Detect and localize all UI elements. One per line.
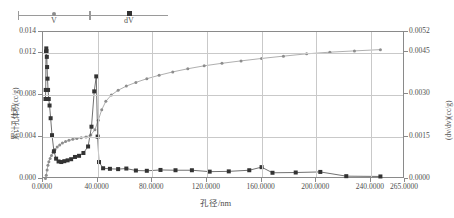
data-point-square <box>69 157 73 161</box>
series-line <box>45 48 380 176</box>
data-point-circle <box>71 138 74 141</box>
y-axis-right-tick <box>404 31 408 32</box>
data-point-circle <box>61 142 64 145</box>
data-point-circle <box>134 81 137 84</box>
data-point-square <box>134 169 138 173</box>
data-point-square <box>101 166 105 170</box>
gridline-vertical <box>371 32 372 177</box>
data-point-circle <box>45 174 48 177</box>
x-axis-tick-label: 265.0000 <box>390 183 418 191</box>
legend-label-dv: dV <box>124 16 134 26</box>
y-axis-right-tick <box>404 93 408 94</box>
x-axis-tick-label: 120.0000 <box>192 183 220 191</box>
data-point-square <box>81 151 85 155</box>
x-axis-tick-label: 160.0000 <box>247 183 275 191</box>
gridline-vertical <box>152 32 153 177</box>
data-point-circle <box>240 59 243 62</box>
data-point-circle <box>58 143 61 146</box>
data-point-circle <box>158 74 161 77</box>
data-point-square <box>116 167 120 171</box>
data-point-square <box>108 167 112 171</box>
data-point-square <box>46 88 50 92</box>
y-axis-left-tick-label: 0.000 <box>0 174 36 182</box>
chart-root: V dV 累计孔体积(cc/g) (dv/dv)(cc/g) 孔径/nm 0.0… <box>0 0 454 218</box>
data-point-square <box>47 97 51 101</box>
y-axis-left-tick-label: 0.012 <box>0 48 36 56</box>
x-axis-tick-label: 0.0000 <box>32 183 53 191</box>
y-axis-right-tick-label: 0.0045 <box>409 47 430 55</box>
data-point-square <box>190 168 194 172</box>
data-point-square <box>49 116 53 120</box>
data-point-circle <box>379 48 382 51</box>
y-axis-right-tick <box>404 51 408 52</box>
data-point-circle <box>145 77 148 80</box>
legend-tick-left <box>90 11 91 20</box>
y-axis-right-title: (dv/dv)(cc/g) <box>444 100 453 140</box>
series-v <box>44 48 382 180</box>
data-point-circle <box>67 139 70 142</box>
data-point-square <box>378 174 382 178</box>
data-point-square <box>145 169 149 173</box>
data-point-square <box>270 171 274 175</box>
x-axis-tick-label: 240.0000 <box>356 183 384 191</box>
data-point-circle <box>100 108 103 111</box>
x-axis-tick-label: 40.0000 <box>84 183 108 191</box>
data-point-circle <box>93 128 96 131</box>
data-point-circle <box>64 140 67 143</box>
legend-entry-v[interactable]: V <box>18 6 90 28</box>
data-point-circle <box>44 177 47 180</box>
data-point-circle <box>282 55 285 58</box>
data-point-circle <box>125 85 128 88</box>
x-axis-title: 孔径/nm <box>200 196 231 208</box>
legend-label-v: V <box>51 16 57 26</box>
data-point-circle <box>220 62 223 65</box>
data-point-square <box>73 155 77 159</box>
data-point-circle <box>49 157 52 160</box>
x-axis-tick-label: 200.0000 <box>301 183 329 191</box>
data-point-square <box>66 158 70 162</box>
data-point-square <box>174 168 178 172</box>
data-point-square <box>52 149 56 153</box>
y-axis-left-tick-label: 0.004 <box>0 132 36 140</box>
data-point-square <box>86 144 90 148</box>
y-axis-left-tick-label: 0.014 <box>0 27 36 35</box>
data-point-circle <box>50 154 53 157</box>
y-axis-left-tick <box>38 94 42 95</box>
data-point-circle <box>56 145 59 148</box>
legend-entry-dv[interactable]: dV <box>90 6 168 28</box>
data-point-circle <box>353 49 356 52</box>
data-point-square <box>45 55 49 59</box>
y-axis-right-tick-label: 0.0052 <box>409 27 430 35</box>
gridline-vertical <box>316 32 317 177</box>
y-axis-right-tick-label: 0.0000 <box>409 174 430 182</box>
data-point-square <box>208 170 212 174</box>
data-point-square <box>294 171 298 175</box>
data-point-square <box>46 77 50 81</box>
data-point-square <box>45 65 49 69</box>
data-point-square <box>77 154 81 158</box>
data-point-circle <box>171 70 174 73</box>
y-axis-left-tick <box>38 52 42 53</box>
data-point-circle <box>46 169 49 172</box>
y-axis-right-tick <box>404 136 408 137</box>
data-point-square <box>158 168 162 172</box>
data-point-circle <box>46 164 49 167</box>
gridline-vertical <box>98 32 99 177</box>
series-dv <box>43 46 382 178</box>
gridline-vertical <box>262 32 263 177</box>
plot-area <box>42 31 404 178</box>
gridline-vertical <box>207 32 208 177</box>
data-point-square <box>227 169 231 173</box>
y-axis-right-tick-label: 0.0030 <box>409 89 430 97</box>
series-line <box>45 50 380 179</box>
y-axis-left-tick <box>38 136 42 137</box>
data-point-square <box>344 174 348 178</box>
data-point-square <box>92 89 96 93</box>
data-point-circle <box>117 89 120 92</box>
y-axis-left-tick-label: 0.008 <box>0 90 36 98</box>
y-axis-right-tick-label: 0.0015 <box>409 132 430 140</box>
data-point-circle <box>104 100 107 103</box>
data-point-square <box>89 125 93 129</box>
data-point-square <box>318 170 322 174</box>
chart-legend: V dV <box>18 6 178 28</box>
